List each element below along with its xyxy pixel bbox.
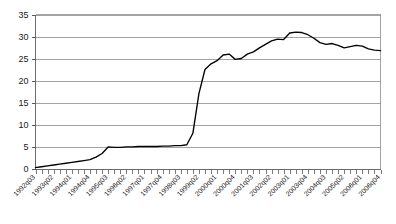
y-axis-group: 05101520253035 bbox=[18, 10, 35, 174]
y-tick-label-20: 20 bbox=[18, 76, 28, 86]
y-tick-label-30: 30 bbox=[18, 32, 28, 42]
gridlines-group bbox=[36, 15, 381, 170]
x-axis-group: 1992q031993q021994q011994q041995q031996q… bbox=[12, 170, 382, 199]
y-tick-label-5: 5 bbox=[23, 142, 28, 152]
y-tick-label-0: 0 bbox=[23, 164, 28, 174]
chart-container: 051015202530351992q031993q021994q011994q… bbox=[0, 0, 396, 224]
y-tick-label-10: 10 bbox=[18, 120, 28, 130]
y-tick-label-25: 25 bbox=[18, 54, 28, 64]
y-tick-label-15: 15 bbox=[18, 98, 28, 108]
y-tick-label-35: 35 bbox=[18, 10, 28, 20]
line-chart: 051015202530351992q031993q021994q011994q… bbox=[0, 0, 396, 224]
